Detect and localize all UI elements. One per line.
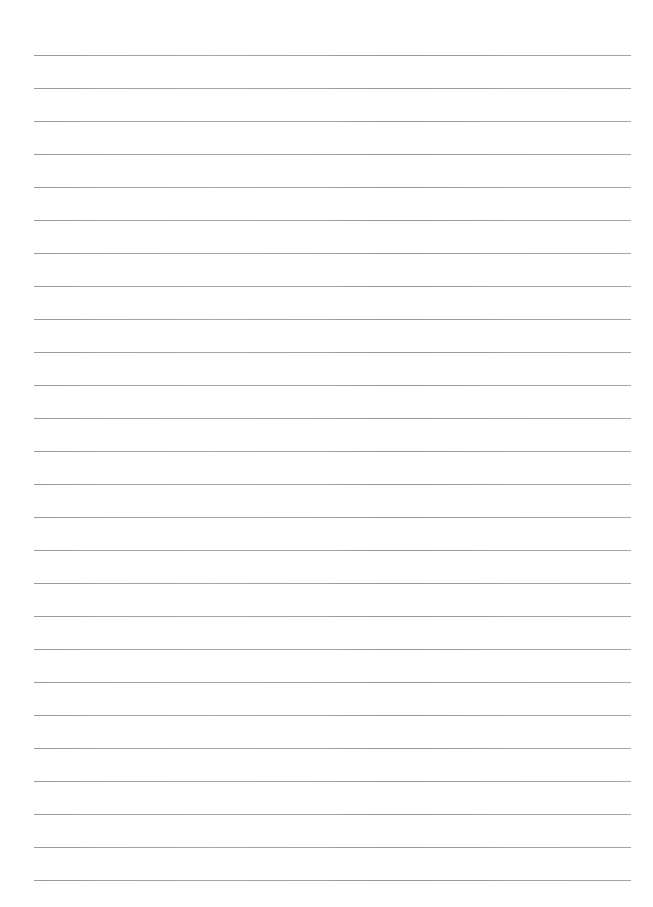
ruled-line (34, 847, 631, 848)
ruled-line (34, 220, 631, 221)
ruled-page (0, 0, 653, 907)
ruled-line (34, 286, 631, 287)
ruled-line (34, 484, 631, 485)
ruled-line (34, 418, 631, 419)
ruled-line (34, 352, 631, 353)
ruled-line (34, 88, 631, 89)
ruled-line (34, 814, 631, 815)
ruled-line (34, 187, 631, 188)
ruled-line (34, 550, 631, 551)
ruled-line (34, 385, 631, 386)
ruled-line (34, 682, 631, 683)
ruled-line (34, 748, 631, 749)
ruled-line (34, 319, 631, 320)
ruled-line (34, 55, 631, 56)
ruled-line (34, 121, 631, 122)
ruled-line (34, 517, 631, 518)
ruled-line (34, 253, 631, 254)
ruled-line (34, 781, 631, 782)
ruled-line (34, 649, 631, 650)
ruled-line (34, 583, 631, 584)
ruled-line (34, 616, 631, 617)
ruled-line (34, 451, 631, 452)
ruled-line (34, 154, 631, 155)
ruled-line (34, 715, 631, 716)
ruled-line (34, 880, 631, 881)
